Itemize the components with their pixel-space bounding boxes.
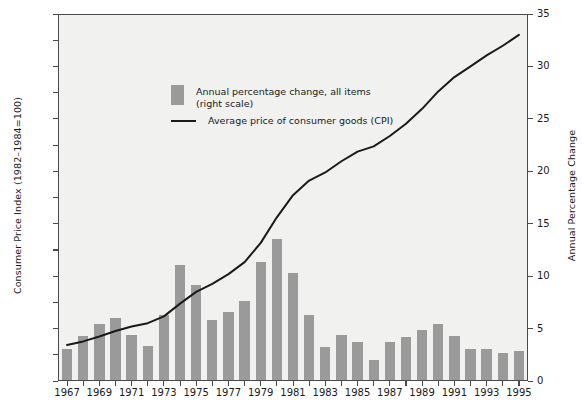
right-tick-label: 0 — [537, 376, 567, 386]
plot-area: Annual percentage change, all items (rig… — [58, 14, 528, 381]
right-tick-label: 35 — [537, 9, 567, 19]
legend-line-icon — [171, 114, 196, 128]
right-tick-mark — [528, 223, 533, 224]
right-tick-mark — [528, 328, 533, 329]
x-tick-mark — [244, 381, 245, 386]
plot-inner — [59, 15, 527, 380]
legend-item-line: Average price of consumer goods (CPI) — [171, 114, 393, 128]
x-tick-mark — [180, 381, 181, 386]
x-tick-mark — [422, 381, 423, 386]
x-tick-mark — [373, 381, 374, 386]
x-tick-mark — [293, 381, 294, 386]
x-tick-mark — [325, 381, 326, 386]
right-axis-title: Annual Percentage Change — [566, 86, 577, 306]
x-tick-mark — [115, 381, 116, 386]
left-axis-title: Consumer Price Index (1982–1984=100) — [12, 86, 23, 306]
x-tick-mark — [405, 381, 406, 386]
x-tick-mark — [163, 381, 164, 386]
right-tick-mark — [528, 276, 533, 277]
legend-swatch-icon — [171, 85, 184, 105]
right-tick-mark — [528, 118, 533, 119]
x-tick-mark — [389, 381, 390, 386]
x-tick-mark — [470, 381, 471, 386]
cpi-line-layer — [59, 15, 527, 380]
x-tick-mark — [357, 381, 358, 386]
x-tick-mark — [67, 381, 68, 386]
right-tick-label: 10 — [537, 271, 567, 281]
x-tick-mark — [309, 381, 310, 386]
right-tick-label: 30 — [537, 61, 567, 71]
x-tick-mark — [212, 381, 213, 386]
cpi-line — [67, 35, 519, 345]
legend-line-glyph — [171, 120, 196, 122]
right-tick-mark — [528, 14, 533, 15]
x-tick-mark — [341, 381, 342, 386]
legend-label-line: Average price of consumer goods (CPI) — [208, 114, 393, 127]
cpi-chart-figure: Consumer Price Index (1982–1984=100) Ann… — [0, 0, 586, 410]
x-tick-mark — [502, 381, 503, 386]
right-tick-mark — [528, 66, 533, 67]
x-tick-mark — [260, 381, 261, 386]
right-tick-label: 25 — [537, 114, 567, 124]
x-tick-mark — [131, 381, 132, 386]
right-tick-label: 5 — [537, 324, 567, 334]
legend-item-bars: Annual percentage change, all items (rig… — [171, 85, 393, 110]
chart-legend: Annual percentage change, all items (rig… — [171, 85, 393, 132]
x-tick-mark — [99, 381, 100, 386]
legend-label-bars: Annual percentage change, all items (rig… — [196, 85, 371, 110]
x-tick-mark — [454, 381, 455, 386]
right-tick-label: 15 — [537, 219, 567, 229]
x-tick-mark — [438, 381, 439, 386]
x-tick-mark — [228, 381, 229, 386]
x-tick-mark — [147, 381, 148, 386]
right-tick-mark — [528, 381, 533, 382]
x-tick-mark — [83, 381, 84, 386]
right-tick-label: 20 — [537, 166, 567, 176]
x-tick-mark — [276, 381, 277, 386]
x-tick-mark — [196, 381, 197, 386]
right-tick-mark — [528, 171, 533, 172]
x-tick-mark — [486, 381, 487, 386]
x-tick-label: 1995 — [499, 387, 539, 398]
x-tick-mark — [518, 381, 519, 386]
